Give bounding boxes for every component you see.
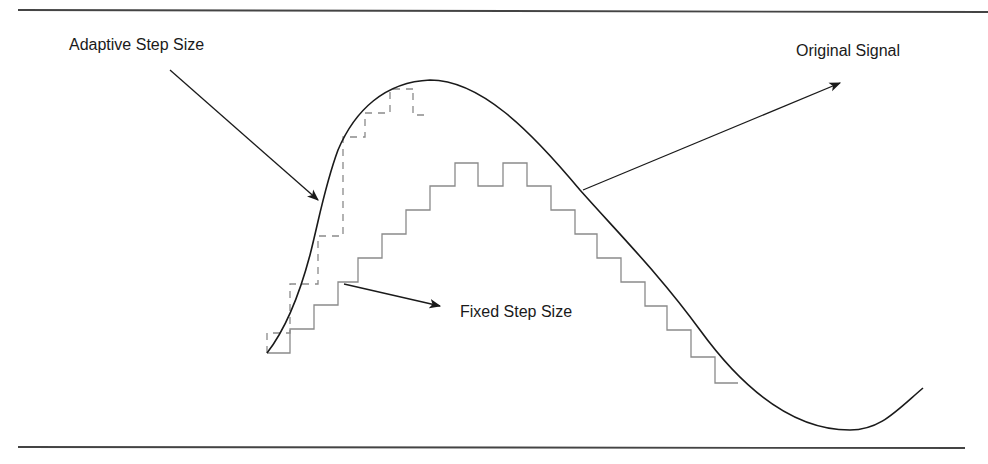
original-signal-label: Original Signal <box>796 42 900 60</box>
fixed-step-size-label: Fixed Step Size <box>460 303 572 321</box>
bottom-rule <box>18 447 965 448</box>
original-arrow <box>583 83 840 190</box>
callout-arrows <box>170 70 840 306</box>
fixed-arrow <box>344 284 440 306</box>
adaptive-arrow <box>170 70 318 200</box>
horizontal-rules <box>18 10 988 448</box>
diagram-canvas <box>0 0 988 464</box>
top-rule <box>18 10 988 12</box>
fixed-step-staircase <box>267 163 738 383</box>
adaptive-step-size-label: Adaptive Step Size <box>69 36 204 54</box>
